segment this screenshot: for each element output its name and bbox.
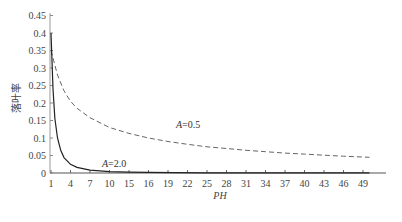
y-axis-label: 落叶率 (10, 83, 22, 113)
y-tick-label: 0.05 (29, 150, 47, 161)
y-tick-label: 0.1 (34, 133, 47, 144)
x-tick-label: 22 (183, 178, 193, 189)
x-tick-label: 19 (163, 178, 173, 189)
line-chart: 00.050.10.150.20.250.30.350.40.451471015… (0, 0, 402, 222)
y-tick-label: 0 (41, 168, 46, 179)
x-tick-label: 15 (124, 178, 134, 189)
x-tick-label: 4 (68, 178, 73, 189)
axes (50, 13, 386, 173)
series-line-a-2-0 (51, 33, 370, 173)
y-tick-label: 0.3 (34, 63, 47, 74)
x-tick-label: 40 (300, 178, 310, 189)
annotation-a-2-0: A=2.0 (101, 158, 126, 169)
y-tick-label: 0.4 (34, 28, 47, 39)
y-tick-label: 0.45 (29, 10, 47, 21)
x-tick-label: 34 (261, 178, 271, 189)
y-tick-label: 0.15 (29, 115, 47, 126)
x-tick-label: 43 (319, 178, 329, 189)
annotation-a-0-5: A=0.5 (175, 119, 200, 130)
x-tick-label: 37 (280, 178, 290, 189)
x-axis-label: PH (212, 190, 227, 201)
x-tick-label: 28 (222, 178, 232, 189)
y-tick-label: 0.2 (34, 98, 47, 109)
x-tick-label: 46 (339, 178, 349, 189)
x-tick-label: 49 (358, 178, 368, 189)
x-tick-label: 31 (241, 178, 251, 189)
x-tick-label: 10 (105, 178, 115, 189)
x-tick-label: 7 (88, 178, 93, 189)
x-tick-label: 1 (49, 178, 54, 189)
series-lines (51, 33, 370, 173)
y-tick-label: 0.25 (29, 80, 47, 91)
tick-labels: 00.050.10.150.20.250.30.350.40.451471015… (29, 10, 369, 189)
y-tick-label: 0.35 (29, 45, 47, 56)
series-line-a-0-5 (51, 51, 370, 158)
x-tick-label: 16 (144, 178, 154, 189)
x-tick-label: 25 (202, 178, 212, 189)
